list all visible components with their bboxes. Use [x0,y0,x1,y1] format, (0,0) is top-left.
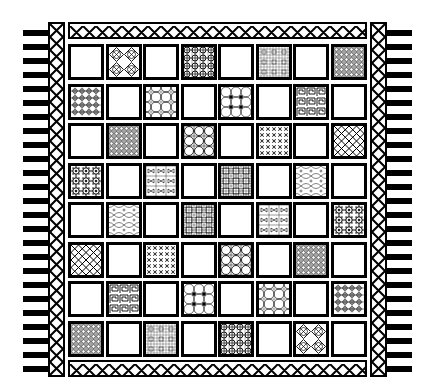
circle-grid-icon [221,245,251,275]
dense-star-icon [221,324,251,354]
fringe-strand [386,156,412,162]
fringe-strand [386,184,412,190]
tile-patterned [293,84,329,120]
fringe-strand [23,170,49,176]
fringe-strand [23,324,49,330]
tile-plain [143,202,179,238]
arc-lattice-icon [109,205,139,235]
fringe-strand [23,30,49,36]
fringe-strand [386,282,412,288]
tile-plain [68,281,104,317]
tile-patterned [181,123,217,159]
tile-patterned [331,202,367,238]
circle-grid-icon [184,126,214,156]
tile-plain [181,163,217,199]
tile-plain [106,242,142,278]
fringe-strand [386,142,412,148]
tile-patterned [143,84,179,120]
tile-patterned [181,281,217,317]
tile-patterned [293,163,329,199]
tile-plain [106,321,142,357]
fringe-strand [386,310,412,316]
fringe-strand [23,142,49,148]
fringe-strand [23,72,49,78]
fringe-strand [23,240,49,246]
fringe-strand [386,254,412,260]
fringe-strand [23,282,49,288]
tile-patterned [331,281,367,317]
fringe-strand [386,114,412,120]
tile-patterned [68,163,104,199]
flower-rosette-icon [334,205,364,235]
tile-plain [331,321,367,357]
cross-grid-icon [334,284,364,314]
tile-patterned [256,281,292,317]
arc-lattice-icon [296,166,326,196]
fringe-strand [23,184,49,190]
border-right [370,22,387,377]
fringe-strand [386,226,412,232]
tile-plain [331,84,367,120]
flower-circles-icon [184,284,214,314]
fringe-strand [23,114,49,120]
diamond-lattice-icon [372,24,385,375]
tile-patterned [143,242,179,278]
bowtie-grid-icon [146,166,176,196]
flower-rosette-icon [71,166,101,196]
fringe-strand [23,128,49,134]
border-left [48,22,65,377]
fringe-strand [23,352,49,358]
fringe-strand [23,310,49,316]
circle-lattice-icon [146,87,176,117]
flower-circles-icon [221,87,251,117]
fringe-strand [386,30,412,36]
tile-plain [218,202,254,238]
tile-patterned [68,84,104,120]
cross-grid-icon [71,87,101,117]
greek-key-icon [109,284,139,314]
circle-lattice-icon [259,284,289,314]
fringe-strand [386,58,412,64]
fringe-strand [23,296,49,302]
tile-patterned [218,242,254,278]
tile-patterned [143,163,179,199]
tile-patterned [218,84,254,120]
tile-patterned [143,321,179,357]
dense-lattice-icon [296,245,326,275]
diamond-lattice-icon [70,26,365,39]
tile-patterned [181,44,217,80]
fringe-strand [386,198,412,204]
dense-lattice-icon [109,126,139,156]
tile-plain [256,242,292,278]
fringe-strand [23,268,49,274]
tile-plain [218,123,254,159]
tile-patterned [106,202,142,238]
fringe-strand [386,296,412,302]
star-grid-icon [146,245,176,275]
fringe-strand [386,72,412,78]
fringe-strand [386,128,412,134]
tile-plain [181,84,217,120]
fringe-strand [386,338,412,344]
dense-lattice-icon [71,324,101,354]
tile-patterned [256,202,292,238]
tile-patterned [293,242,329,278]
tile-plain [143,44,179,80]
fringe-strand [386,366,412,372]
tile-plain [143,281,179,317]
tile-patterned [256,44,292,80]
fringe-strand [386,170,412,176]
border-top [68,22,367,39]
tile-patterned [106,123,142,159]
fringe-strand [23,86,49,92]
fringe-strand [386,212,412,218]
tile-patterned [218,321,254,357]
fringe-strand [23,226,49,232]
fringe-strand [23,212,49,218]
tile-plain [331,163,367,199]
tile-plain [68,123,104,159]
tile-plain [293,281,329,317]
fringe-strand [23,338,49,344]
tile-plain [181,321,217,357]
fringe-strand [23,198,49,204]
